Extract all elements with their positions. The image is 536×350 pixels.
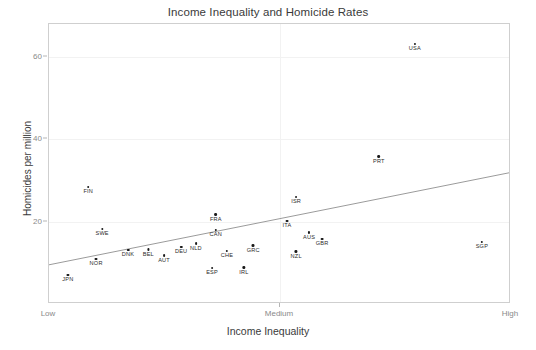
data-point[interactable]: FRA	[210, 213, 222, 223]
data-point[interactable]: BEL	[143, 248, 154, 258]
data-point[interactable]: AUT	[158, 254, 170, 264]
chart-title: Income Inequality and Homicide Rates	[0, 6, 536, 18]
x-tick-label: Low	[41, 309, 56, 318]
x-axis-title: Income Inequality	[0, 325, 536, 337]
data-point[interactable]: FIN	[83, 186, 93, 196]
data-point-label: GBR	[316, 240, 329, 247]
data-point-label: USA	[409, 45, 421, 52]
data-point[interactable]: CAN	[210, 229, 222, 239]
data-point-label: BEL	[143, 251, 154, 258]
plot-area: JPNNORFINSWEDNKBELAUTDEUNLDESPFRACANCHEI…	[48, 23, 510, 303]
data-point-label: CAN	[210, 231, 222, 238]
data-point[interactable]: PRT	[373, 155, 385, 165]
data-point[interactable]: SWE	[95, 228, 108, 238]
data-point-label: ISR	[291, 198, 301, 205]
trend-line	[49, 24, 509, 302]
data-point-label: FIN	[83, 188, 93, 195]
data-point-label: SGP	[476, 243, 488, 250]
data-point-label: IRL	[239, 269, 248, 276]
data-point[interactable]: AUS	[303, 231, 315, 241]
data-point-label: DNK	[122, 251, 134, 258]
data-point-label: ITA	[282, 222, 291, 229]
data-point[interactable]: DNK	[122, 249, 134, 259]
data-point[interactable]: GRC	[247, 244, 260, 254]
x-tick-mark	[279, 303, 280, 307]
data-point[interactable]: DEU	[175, 246, 187, 256]
y-axis-title: Homicides per million	[22, 69, 33, 269]
data-point-label: NZL	[291, 253, 302, 260]
data-point-label: CHE	[221, 252, 233, 259]
data-point-label: AUT	[158, 257, 170, 264]
data-point[interactable]: JPN	[62, 274, 73, 284]
data-point[interactable]: NZL	[291, 250, 302, 260]
data-point[interactable]: NLD	[190, 242, 202, 252]
data-point-label: ESP	[206, 269, 218, 276]
data-point[interactable]: IRL	[239, 266, 248, 276]
data-point[interactable]: GBR	[316, 238, 329, 248]
data-point-label: FRA	[210, 216, 222, 223]
y-tick-label: 20	[2, 216, 42, 225]
data-point-label: DEU	[175, 248, 187, 255]
data-point[interactable]: SGP	[476, 241, 488, 251]
y-tick-mark	[43, 138, 47, 139]
y-tick-mark	[43, 55, 47, 56]
data-point-label: NLD	[190, 245, 202, 252]
y-tick-label: 40	[2, 134, 42, 143]
data-point-label: NOR	[90, 260, 103, 267]
data-point[interactable]: ESP	[206, 267, 218, 277]
data-point-label: SWE	[95, 230, 108, 237]
x-tick-label: Medium	[265, 309, 293, 318]
data-point-label: AUS	[303, 234, 315, 241]
data-point[interactable]: NOR	[90, 258, 103, 268]
data-point-label: PRT	[373, 158, 385, 165]
x-tick-label: High	[502, 309, 518, 318]
data-point[interactable]: ITA	[282, 220, 291, 230]
y-tick-label: 60	[2, 51, 42, 60]
data-point-label: JPN	[62, 276, 73, 283]
data-point-label: GRC	[247, 247, 260, 254]
data-point[interactable]: USA	[409, 43, 421, 53]
data-point[interactable]: CHE	[221, 250, 233, 260]
data-point[interactable]: ISR	[291, 196, 301, 206]
y-tick-mark	[43, 220, 47, 221]
chart-container: Income Inequality and Homicide Rates Hom…	[0, 0, 536, 350]
regression-line	[49, 173, 509, 265]
